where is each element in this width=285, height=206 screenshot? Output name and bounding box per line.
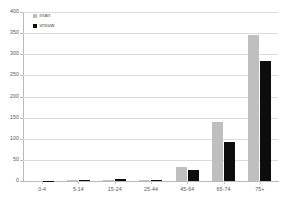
man-swatch-icon [33,14,37,18]
y-tick-label: 400 [10,9,19,14]
bar-chart: 050100150200250300350400 0-45-1415-2425-… [0,0,285,206]
bar-group [169,12,205,181]
bar-vrouw [260,61,271,181]
bar-group [60,12,96,181]
y-tick-mark [20,54,23,55]
y-tick-label: 150 [10,115,19,120]
bar-man [139,180,150,181]
y-tick-label: 350 [10,31,19,36]
x-tick-mark [224,181,225,184]
bar-vrouw [224,142,235,181]
bar-group [205,12,241,181]
y-tick-label: 100 [10,136,19,141]
bar-vrouw [151,180,162,181]
y-tick-mark [20,12,23,13]
bar-groups [24,12,278,181]
y-tick-label: 250 [10,73,19,78]
bar-man [248,35,259,181]
legend-label-vrouw: vrouw [40,23,55,28]
y-tick-label: 0 [16,178,19,183]
bar-man [67,180,78,181]
y-tick-label: 50 [13,157,19,162]
x-tick-label: 0-4 [24,186,60,192]
bar-vrouw [79,180,90,181]
x-tick-label: 65-74 [205,186,241,192]
y-tick-label: 200 [10,94,19,99]
bar-vrouw [43,181,54,182]
x-tick-mark [260,181,261,184]
x-axis-labels: 0-45-1415-2425-4445-6465-7475+ [24,186,278,192]
y-tick-mark [20,181,23,182]
vrouw-swatch-icon [33,24,37,28]
bar-man [212,122,223,181]
y-tick-mark [20,33,23,34]
y-tick-mark [20,160,23,161]
bar-group [133,12,169,181]
y-tick-mark [20,118,23,119]
x-tick-mark [187,181,188,184]
bar-group [242,12,278,181]
x-tick-mark [78,181,79,184]
y-tick-mark [20,75,23,76]
bar-group [97,12,133,181]
legend-item-vrouw: vrouw [33,22,55,29]
bar-man [176,167,187,181]
y-tick-mark [20,97,23,98]
x-tick-label: 15-24 [97,186,133,192]
bar-group [24,12,60,181]
y-tick-mark [20,139,23,140]
y-tick-label: 300 [10,52,19,57]
x-tick-label: 25-44 [133,186,169,192]
bar-man [31,181,42,182]
chart-legend: man vrouw [33,12,55,29]
x-tick-mark [115,181,116,184]
x-tick-mark [151,181,152,184]
x-tick-label: 5-14 [60,186,96,192]
bar-man [103,180,114,181]
x-tick-mark [42,181,43,184]
bar-vrouw [188,170,199,181]
bar-vrouw [115,179,126,181]
legend-item-man: man [33,12,55,19]
x-tick-label: 45-64 [169,186,205,192]
x-tick-label: 75+ [242,186,278,192]
legend-label-man: man [40,13,51,18]
